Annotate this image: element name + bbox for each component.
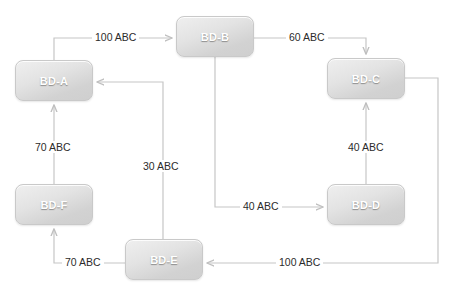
edge-label-e-to-a: 30 ABC [140,160,182,172]
node-bd-c[interactable]: BD-C [327,58,405,99]
node-bd-e[interactable]: BD-E [125,239,203,280]
edge-label-f-to-a: 70 ABC [32,141,74,153]
node-bd-d[interactable]: BD-D [327,184,405,225]
edge-label-a-to-b: 100 ABC [92,31,139,43]
node-label-bd-f: BD-F [40,199,67,211]
edge-path-c-to-e [207,78,438,263]
edge-label-e-to-f: 70 ABC [62,256,104,268]
node-bd-a[interactable]: BD-A [15,60,93,101]
node-label-bd-e: BD-E [150,254,178,266]
node-label-bd-b: BD-B [201,31,229,43]
edge-path-b-to-d [215,57,323,207]
edge-label-c-to-e: 100 ABC [276,256,323,268]
edge-label-d-to-c: 40 ABC [345,141,387,153]
node-label-bd-a: BD-A [40,75,68,87]
node-label-bd-d: BD-D [352,199,380,211]
node-label-bd-c: BD-C [352,73,380,85]
node-bd-f[interactable]: BD-F [15,184,93,225]
edge-label-b-to-c: 60 ABC [286,31,328,43]
diagram-canvas: BD-A BD-B BD-C BD-D BD-E BD-F 100 ABC 60… [0,0,454,293]
edge-label-b-to-d: 40 ABC [240,200,282,212]
node-bd-b[interactable]: BD-B [176,16,254,57]
